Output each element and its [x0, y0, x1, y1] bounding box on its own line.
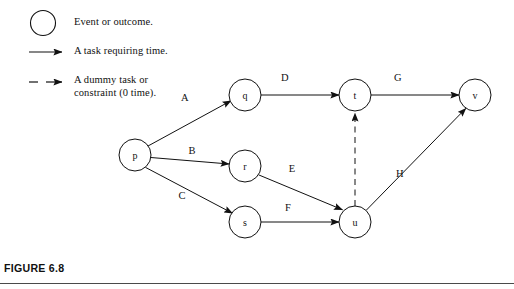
edge-label-D: D: [281, 72, 289, 83]
edge-label-C: C: [178, 190, 185, 201]
node-label-v: v: [472, 90, 477, 101]
edge-A: [148, 101, 231, 146]
edge-H: [366, 108, 466, 210]
node-label-t: t: [354, 90, 357, 101]
legend-circle-icon: [31, 11, 56, 36]
edge-label-A: A: [181, 92, 189, 103]
legend-label-task: A task requiring time.: [74, 45, 168, 58]
edge-label-H: H: [396, 168, 404, 179]
node-label-u: u: [352, 217, 357, 228]
edge-label-E: E: [289, 163, 296, 174]
legend-label-event: Event or outcome.: [74, 16, 153, 29]
edge-C: [146, 167, 233, 213]
edge-label-B: B: [188, 145, 195, 156]
node-label-s: s: [243, 217, 247, 228]
edge-label-F: F: [285, 202, 291, 213]
node-label-p: p: [132, 150, 137, 161]
figure-caption: FIGURE 6.8: [4, 262, 64, 274]
edge-B: [151, 158, 229, 165]
edge-E: [259, 175, 343, 210]
node-label-q: q: [242, 90, 247, 101]
network-diagram: [0, 0, 514, 289]
caption-divider: [0, 283, 514, 284]
node-label-r: r: [243, 161, 247, 172]
edge-label-G: G: [394, 72, 402, 83]
legend-label-dummy: A dummy task or constraint (0 time).: [74, 74, 156, 99]
figure-6-8: Event or outcome. A task requiring time.…: [0, 0, 514, 289]
